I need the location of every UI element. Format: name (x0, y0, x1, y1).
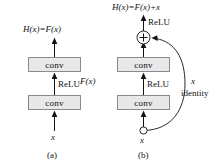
panel-b-shortcut-var-label: x (191, 76, 195, 86)
panel-a-conv-lower[interactable]: conv (28, 95, 81, 110)
panel-a-conv-upper-label: conv (45, 60, 63, 70)
panel-b-shortcut-name-label: identity (181, 88, 209, 98)
panel-b-caption: (b) (138, 150, 149, 160)
panel-a-conv-upper[interactable]: conv (28, 57, 81, 72)
panel-b-output-label: H(x)=F(x)+x (112, 2, 160, 12)
panel-b-relu-mid-label: ReLU (147, 79, 169, 89)
panel-b-relu-top-label: ReLU (148, 17, 170, 27)
panel-residual-block: H(x)=F(x)+x ReLU conv ReLU conv x x iden… (111, 0, 222, 168)
panel-a-caption: (a) (47, 150, 57, 160)
residual-block-figure: H(x)=F(x) conv ReLU conv x (a) F(x) (0, 0, 222, 168)
panel-a-relu-label: ReLU (58, 79, 80, 89)
panel-b-conv-upper[interactable]: conv (117, 57, 170, 72)
panel-b-input-label: x (140, 135, 144, 145)
panel-a-output-label: H(x)=F(x) (23, 24, 61, 34)
panel-b-conv-lower[interactable]: conv (117, 95, 170, 110)
panel-b-conv-lower-label: conv (134, 98, 152, 108)
panel-a-input-label: x (51, 132, 55, 142)
panel-a-conv-lower-label: conv (45, 98, 63, 108)
panel-a-branch-label: F(x) (80, 76, 96, 86)
panel-b-conv-upper-label: conv (134, 60, 152, 70)
